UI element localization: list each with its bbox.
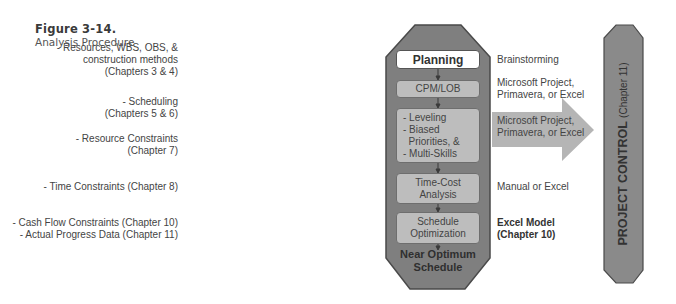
input-line: (Chapters 5 & 6) — [105, 108, 178, 120]
step-cpm-lob: CPM/LOB — [396, 80, 480, 98]
step-line: Analysis — [415, 189, 461, 201]
input-line: - Scheduling — [105, 96, 178, 108]
tool-excel-model: Excel Model (Chapter 10) — [497, 217, 555, 241]
project-control-chapter: (Chapter 11) — [618, 63, 629, 118]
step-leveling: - Leveling - Biased Priorities, & - Mult… — [396, 108, 480, 163]
step-line: Schedule — [410, 216, 466, 228]
input-line: (Chapters 3 & 4) — [57, 66, 178, 78]
tool-manual-or-excel: Manual or Excel — [497, 181, 569, 193]
input-line: - Resources, WBS, OBS, & — [57, 42, 178, 54]
tool-line: Primavera, or Excel — [497, 127, 584, 139]
output-near-optimum-schedule: Near Optimum Schedule — [386, 248, 490, 274]
input-cash-flow-progress: - Cash Flow Constraints (Chapter 10) - A… — [12, 217, 178, 241]
output-line: Schedule — [386, 261, 490, 274]
tool-line: Primavera, or Excel — [497, 89, 584, 101]
tool-line: (Chapter 10) — [497, 229, 555, 241]
step-time-cost-text: Time-Cost Analysis — [415, 177, 461, 201]
step-planning: Planning — [396, 50, 480, 69]
input-line: - Actual Progress Data (Chapter 11) — [12, 229, 178, 241]
step-schedule-opt-text: Schedule Optimization — [410, 216, 466, 240]
input-scheduling: - Scheduling (Chapters 5 & 6) — [105, 96, 178, 120]
step-line: - Multi-Skills — [403, 148, 460, 160]
tool-line: Brainstorming — [497, 54, 559, 66]
step-line: - Leveling — [403, 112, 460, 124]
input-line: construction methods — [57, 54, 178, 66]
tool-line: Excel Model — [497, 217, 555, 229]
project-control-title: PROJECT CONTROL — [616, 121, 630, 245]
tool-ms-project-1: Microsoft Project, Primavera, or Excel — [497, 77, 584, 101]
step-line: Optimization — [410, 228, 466, 240]
step-leveling-text: - Leveling - Biased Priorities, & - Mult… — [403, 112, 460, 160]
step-line: Priorities, & — [403, 136, 460, 148]
tool-line: Microsoft Project, — [497, 115, 584, 127]
step-time-cost-analysis: Time-Cost Analysis — [396, 173, 480, 204]
tool-brainstorming: Brainstorming — [497, 54, 559, 66]
tool-ms-project-2: Microsoft Project, Primavera, or Excel — [497, 115, 584, 139]
project-control-label: PROJECT CONTROL (Chapter 11) — [616, 63, 630, 246]
input-time-constraints: - Time Constraints (Chapter 8) — [44, 181, 179, 193]
input-line: - Time Constraints (Chapter 8) — [44, 181, 179, 193]
step-line: Time-Cost — [415, 177, 461, 189]
tool-line: Microsoft Project, — [497, 77, 584, 89]
step-line: - Biased — [403, 124, 460, 136]
input-resources-wbs: - Resources, WBS, OBS, & construction me… — [57, 42, 178, 78]
input-resource-constraints: - Resource Constraints (Chapter 7) — [76, 133, 178, 157]
input-line: - Resource Constraints — [76, 133, 178, 145]
tool-line: Manual or Excel — [497, 181, 569, 193]
input-line: (Chapter 7) — [76, 145, 178, 157]
step-schedule-optimization: Schedule Optimization — [396, 212, 480, 244]
input-line: - Cash Flow Constraints (Chapter 10) — [12, 217, 178, 229]
output-line: Near Optimum — [386, 248, 490, 261]
